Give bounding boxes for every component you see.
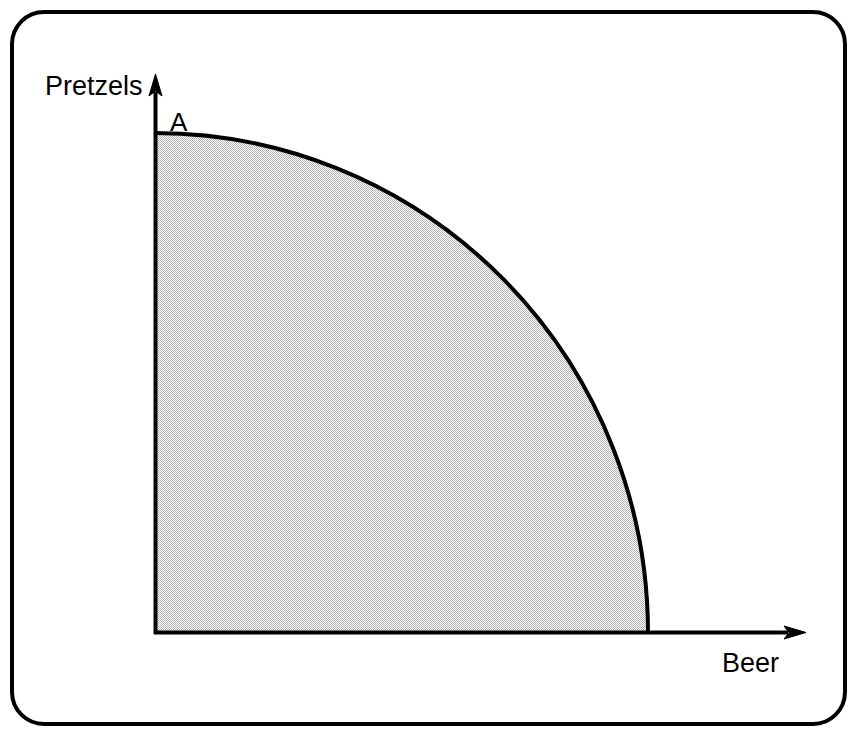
ppf-diagram: Pretzels Beer A xyxy=(0,0,858,736)
x-axis-label: Beer xyxy=(722,648,779,678)
figure-canvas: Pretzels Beer A xyxy=(0,0,858,736)
y-axis-label: Pretzels xyxy=(45,71,143,101)
point-a-label: A xyxy=(170,107,188,137)
